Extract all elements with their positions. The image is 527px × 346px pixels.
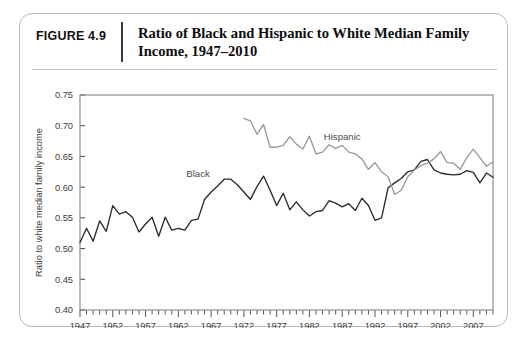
figure-title: Ratio of Black and Hispanic to White Med… — [138, 25, 493, 60]
y-axis-tick-label: 0.75 — [55, 90, 73, 100]
x-axis-ticks-group: 1947195219571962196719721977198219871992… — [70, 310, 493, 328]
x-axis-tick-label: 1952 — [102, 321, 123, 328]
y-axis-title: Ratio to white median family income — [34, 128, 44, 277]
line-chart: Ratio to white median family income 0.40… — [20, 69, 509, 328]
x-axis-tick-label: 1992 — [365, 321, 386, 328]
y-axis-title-group: Ratio to white median family income — [34, 128, 44, 277]
figure-header: FIGURE 4.9 Ratio of Black and Hispanic t… — [20, 14, 507, 67]
x-axis-tick-label: 1967 — [201, 321, 222, 328]
figure-number-label: FIGURE 4.9 — [36, 29, 106, 43]
y-axis-tick-label: 0.55 — [55, 213, 73, 223]
y-axis-tick-label: 0.45 — [55, 275, 73, 285]
data-series-group — [80, 118, 493, 242]
x-axis-tick-label: 1962 — [168, 321, 189, 328]
x-axis-tick-label: 1982 — [299, 321, 320, 328]
chart-plot-area: Ratio to white median family income 0.40… — [20, 69, 507, 328]
series-annotations-group: BlackHispanic — [186, 131, 361, 179]
series-annotation-hispanic: Hispanic — [324, 131, 361, 142]
series-line-black — [80, 160, 493, 243]
series-line-hispanic — [244, 118, 493, 194]
y-axis-tick-label: 0.60 — [55, 183, 73, 193]
x-axis-tick-label: 1957 — [135, 321, 156, 328]
x-axis-tick-label: 1947 — [70, 321, 91, 328]
x-axis-tick-label: 1987 — [332, 321, 353, 328]
y-axis-tick-label: 0.50 — [55, 244, 73, 254]
figure-card: FIGURE 4.9 Ratio of Black and Hispanic t… — [19, 13, 508, 327]
y-axis-tick-label: 0.65 — [55, 152, 73, 162]
x-axis-tick-label: 1972 — [234, 321, 255, 328]
y-axis-tick-label: 0.70 — [55, 121, 73, 131]
x-axis-tick-label: 2002 — [430, 321, 451, 328]
x-axis-tick-label: 1977 — [266, 321, 287, 328]
x-axis-tick-label: 2007 — [463, 321, 484, 328]
y-axis-tick-label: 0.40 — [55, 305, 73, 315]
header-divider — [121, 22, 123, 62]
x-axis-tick-label: 1997 — [397, 321, 418, 328]
series-annotation-black: Black — [186, 168, 210, 179]
